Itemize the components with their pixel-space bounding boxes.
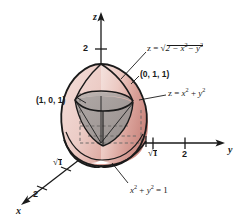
z-tick-label-2: 2 [83, 44, 88, 53]
circle-equals: = [156, 185, 161, 195]
equation-paraboloid-lhs: z = [168, 88, 179, 98]
y-tick-label-sqrt2: √1 [148, 149, 157, 158]
sqrt-radical-sphere: √2 − x2− y2 [161, 44, 204, 53]
point-label-1-0-1: (1, 0, 1) [36, 96, 65, 105]
figure-3d-solid-region: z y x 2 2 2 √1 √1 (1, 0, 1) (0, 1, 1) z … [0, 0, 243, 219]
equation-sphere-lhs: z = [147, 43, 158, 53]
y-tick-label-2: 2 [182, 150, 187, 159]
x-tick-label-sqrt2: √1 [53, 158, 62, 167]
circle-exp-y: 2 [151, 183, 154, 190]
x-tick-2 [37, 186, 47, 190]
equation-circle: x2 + y2 = 1 [130, 186, 168, 195]
paraboloid-exp-x: 2 [186, 86, 189, 93]
circle-plus: + [139, 185, 144, 195]
sqrt-overbar-x [58, 159, 62, 160]
figure-canvas [0, 0, 243, 219]
y-axis-label: y [228, 145, 232, 155]
point-label-0-1-1: (0, 1, 1) [140, 70, 169, 79]
sqrt-overbar-sphere [167, 45, 204, 46]
equation-sphere: z = √2 − x2− y2 [147, 44, 203, 53]
sqrt-radical-x: √1 [53, 158, 62, 167]
sqrt-radical-y: √1 [148, 149, 157, 158]
sqrt-overbar-y [153, 150, 157, 151]
paraboloid-plus: + [191, 88, 196, 98]
x-tick-label-2: 2 [33, 190, 38, 199]
circle-rhs: 1 [163, 185, 168, 195]
equation-paraboloid: z = x2 + y2 [168, 89, 205, 98]
leader-line-circle-equation [112, 163, 128, 183]
x-axis-label: x [16, 206, 21, 216]
circle-exp-x: 2 [134, 183, 137, 190]
x-axis-arrowhead [21, 195, 31, 205]
paraboloid-exp-y: 2 [202, 86, 205, 93]
z-axis-label: z [93, 12, 97, 22]
